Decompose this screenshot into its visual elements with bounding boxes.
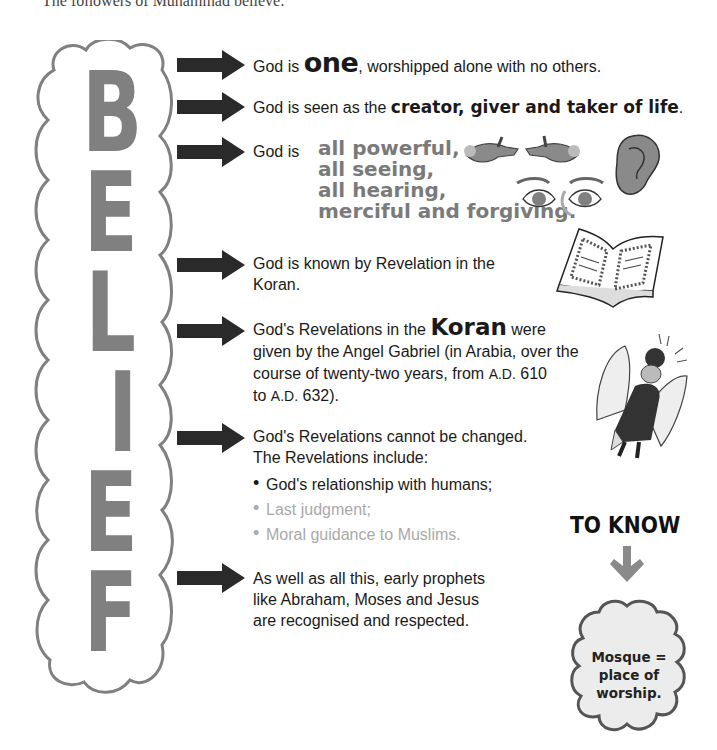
mosque-definition: Mosque = place of worship. xyxy=(569,648,689,702)
ear-icon xyxy=(613,133,663,198)
list-item: God's relationship with humans; xyxy=(253,472,527,497)
statement-creator: God is seen as the creator, giver and ta… xyxy=(253,97,683,118)
revelations-list: God's relationship with humans; Last jud… xyxy=(253,472,527,547)
list-item: Last judgment; xyxy=(253,497,527,522)
letter-f: F xyxy=(82,558,140,668)
statement-koran: God's Revelations in the Koran were give… xyxy=(253,316,579,407)
arrow-down-icon xyxy=(610,546,644,582)
arrow-right-icon xyxy=(177,250,247,280)
arrow-right-icon xyxy=(177,137,247,167)
intro-text: The followers of Muhammad believe: xyxy=(42,0,285,10)
list-item: Moral guidance to Muslims. xyxy=(253,522,527,547)
arrow-right-icon xyxy=(177,316,247,346)
statement-revelation: God is known by Revelation in the Koran. xyxy=(253,253,495,295)
statement-unchangeable: God's Revelations cannot be changed. The… xyxy=(253,426,527,547)
emphasis-one: one xyxy=(304,47,359,78)
arrow-right-icon xyxy=(177,50,247,80)
arrow-right-icon xyxy=(177,92,247,122)
emphasis-creator: creator, giver and taker of life xyxy=(391,97,679,117)
belief-cloud-column: B E L I E F xyxy=(34,40,176,700)
emphasis-koran: Koran xyxy=(430,314,506,340)
to-know-heading: TO KNOW xyxy=(570,512,680,538)
hands-icon xyxy=(462,133,582,173)
eyes-icon xyxy=(515,175,610,220)
arrow-right-icon xyxy=(177,423,247,453)
statement-one: God is one, worshipped alone with no oth… xyxy=(253,52,601,77)
arrow-right-icon xyxy=(177,563,247,593)
statement-prophets: As well as all this, early prophets like… xyxy=(253,568,485,631)
open-book-icon xyxy=(553,225,673,310)
statement-attributes-lead: God is xyxy=(253,141,299,162)
angel-icon xyxy=(575,330,705,465)
mosque-cloud: Mosque = place of worship. xyxy=(569,598,689,738)
